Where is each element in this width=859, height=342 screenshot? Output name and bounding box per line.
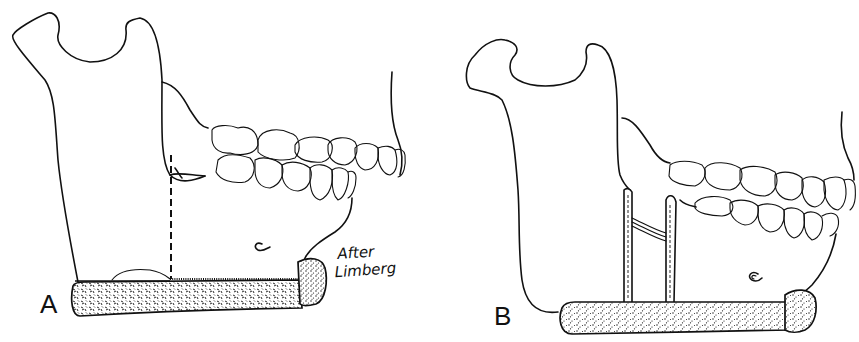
upper-teeth xyxy=(669,161,855,210)
graft-strut-anterior xyxy=(666,196,676,303)
bone-graft-bar xyxy=(560,302,790,334)
panel-label-a: A xyxy=(40,291,57,317)
panel-a-drawing xyxy=(0,0,440,342)
upper-teeth xyxy=(212,126,405,177)
chin-graft-cap xyxy=(785,290,816,332)
bone-graft-bar xyxy=(72,280,302,316)
panel-label-b: B xyxy=(494,303,511,329)
connecting-wires xyxy=(632,218,666,241)
mandible-outline xyxy=(466,40,630,313)
credit-after-limberg: After Limberg xyxy=(337,241,397,281)
panel-b-drawing xyxy=(440,0,859,342)
lower-teeth xyxy=(695,197,839,240)
mandible-outline xyxy=(13,13,205,282)
mental-foramen xyxy=(255,243,270,250)
chin-graft-cap xyxy=(298,259,326,306)
mandible-graft-figure: A After Limberg xyxy=(0,0,859,342)
